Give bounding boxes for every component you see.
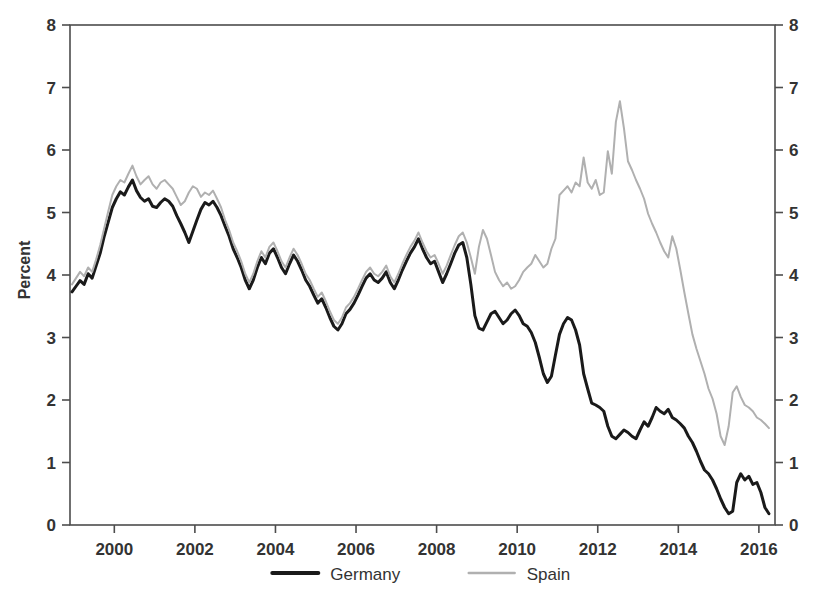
y-axis-left-ticks: 012345678 <box>47 16 70 535</box>
x-tick-label: 2016 <box>740 540 778 559</box>
y-axis-title-text: Percent <box>16 240 33 299</box>
y-tick-label-right: 6 <box>789 141 798 160</box>
chart-legend: GermanySpain <box>272 565 570 584</box>
y-tick-label-left: 4 <box>47 266 57 285</box>
x-axis-ticks: 200020022004200620082010201220142016 <box>95 525 777 559</box>
x-tick-label: 2006 <box>337 540 375 559</box>
y-tick-label-right: 5 <box>789 204 798 223</box>
series-line-germany <box>72 180 769 514</box>
x-tick-label: 2000 <box>95 540 133 559</box>
y-tick-label-left: 0 <box>47 516 56 535</box>
y-tick-label-left: 2 <box>47 391 56 410</box>
x-tick-label: 2008 <box>418 540 456 559</box>
y-tick-label-left: 1 <box>47 454 56 473</box>
y-tick-label-left: 6 <box>47 141 56 160</box>
y-tick-label-left: 5 <box>47 204 56 223</box>
legend-label-spain: Spain <box>527 565 570 584</box>
x-tick-label: 2010 <box>498 540 536 559</box>
series-line-spain <box>72 101 769 445</box>
y-tick-label-right: 2 <box>789 391 798 410</box>
y-tick-label-left: 3 <box>47 329 56 348</box>
y-axis-title: Percent <box>16 240 33 299</box>
y-tick-label-right: 0 <box>789 516 798 535</box>
y-axis-right-ticks: 012345678 <box>775 16 799 535</box>
x-tick-label: 2014 <box>659 540 697 559</box>
line-chart: 012345678 012345678 20002002200420062008… <box>0 0 820 610</box>
y-tick-label-right: 4 <box>789 266 799 285</box>
plot-frame <box>70 25 775 525</box>
axis-frame-rect <box>70 25 775 525</box>
legend-label-germany: Germany <box>330 565 400 584</box>
y-tick-label-right: 1 <box>789 454 798 473</box>
chart-figure: 012345678 012345678 20002002200420062008… <box>0 0 820 610</box>
y-tick-label-right: 8 <box>789 16 798 35</box>
y-tick-label-right: 7 <box>789 79 798 98</box>
y-tick-label-left: 8 <box>47 16 56 35</box>
y-tick-label-right: 3 <box>789 329 798 348</box>
series-paths <box>72 101 769 514</box>
x-tick-label: 2004 <box>257 540 295 559</box>
x-tick-label: 2012 <box>579 540 617 559</box>
y-tick-label-left: 7 <box>47 79 56 98</box>
x-tick-label: 2002 <box>176 540 214 559</box>
